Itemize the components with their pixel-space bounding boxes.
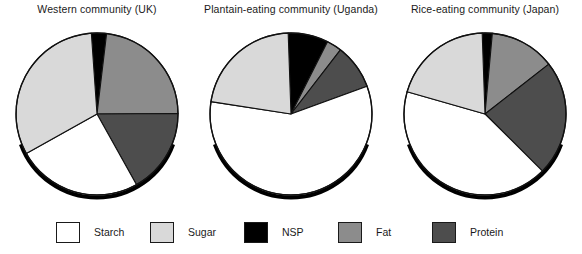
legend-item-starch: Starch (56, 222, 150, 243)
pie-chart-western (0, 24, 194, 204)
pie-panel-plantain: Plantain-eating community (Uganda) (194, 0, 388, 205)
pie-svg-plantain (201, 24, 381, 204)
legend-swatch-fat (338, 222, 362, 243)
legend: Starch Sugar NSP Fat Protein (0, 212, 582, 252)
legend-label-starch: Starch (94, 226, 124, 238)
pie-chart-plantain (194, 24, 388, 204)
pie-svg-rice (395, 24, 575, 204)
legend-swatch-protein (432, 222, 456, 243)
legend-label-protein: Protein (470, 226, 503, 238)
legend-swatch-nsp (244, 222, 268, 243)
legend-swatch-starch (56, 222, 80, 243)
pie-svg-western (7, 24, 187, 204)
figure-canvas: Western community (UK) Plantain-eating c… (0, 0, 582, 254)
legend-label-fat: Fat (376, 226, 391, 238)
legend-swatch-sugar (150, 222, 174, 243)
legend-item-protein: Protein (432, 222, 526, 243)
legend-label-nsp: NSP (282, 226, 304, 238)
legend-item-fat: Fat (338, 222, 432, 243)
legend-item-sugar: Sugar (150, 222, 244, 243)
pie-title-western: Western community (UK) (0, 3, 194, 15)
pie-panel-western: Western community (UK) (0, 0, 194, 205)
legend-item-nsp: NSP (244, 222, 338, 243)
pie-slice-sugar[interactable] (211, 33, 291, 114)
pie-title-rice: Rice-eating community (Japan) (388, 3, 582, 15)
legend-label-sugar: Sugar (188, 226, 216, 238)
pie-panel-rice: Rice-eating community (Japan) (388, 0, 582, 205)
pie-slice-fat[interactable] (97, 34, 178, 114)
pie-title-plantain: Plantain-eating community (Uganda) (194, 3, 388, 15)
pie-chart-rice (388, 24, 582, 204)
